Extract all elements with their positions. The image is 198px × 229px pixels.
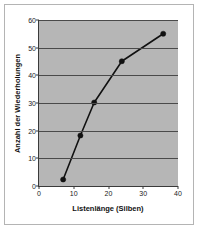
gridline-y-40 — [39, 75, 178, 76]
y-tick-mark-10 — [36, 158, 39, 159]
y-axis-title: Anzahl der Wiederholungen — [12, 20, 23, 187]
gridline-y-20 — [39, 131, 178, 132]
x-tick-label-0: 0 — [37, 190, 41, 197]
x-tick-mark-40 — [178, 186, 179, 189]
gridline-y-30 — [39, 103, 178, 104]
y-tick-label-50: 50 — [28, 44, 36, 51]
y-tick-mark-40 — [36, 75, 39, 76]
x-tick-mark-0 — [39, 186, 40, 189]
data-point-0 — [61, 177, 66, 182]
gridline-y-50 — [39, 48, 178, 49]
x-tick-label-20: 20 — [105, 190, 113, 197]
data-point-4 — [161, 31, 166, 36]
x-tick-label-10: 10 — [70, 190, 78, 197]
x-tick-mark-10 — [73, 186, 74, 189]
y-tick-label-10: 10 — [28, 155, 36, 162]
chart-figure: 0102030405060010203040 Anzahl der Wieder… — [0, 0, 198, 229]
x-tick-label-30: 30 — [139, 190, 147, 197]
x-tick-mark-30 — [143, 186, 144, 189]
y-tick-label-20: 20 — [28, 127, 36, 134]
data-point-1 — [78, 133, 83, 138]
x-tick-mark-20 — [108, 186, 109, 189]
y-tick-label-40: 40 — [28, 72, 36, 79]
x-axis-title: Listenlänge (Silben) — [38, 204, 178, 214]
x-tick-label-40: 40 — [174, 190, 182, 197]
y-tick-mark-50 — [36, 47, 39, 48]
y-tick-label-30: 30 — [28, 100, 36, 107]
y-tick-mark-30 — [36, 103, 39, 104]
gridline-y-10 — [39, 158, 178, 159]
gridline-y-60 — [39, 20, 178, 21]
data-point-3 — [119, 59, 124, 64]
y-tick-label-60: 60 — [28, 17, 36, 24]
y-tick-mark-20 — [36, 130, 39, 131]
y-tick-label-0: 0 — [32, 183, 36, 190]
y-tick-mark-60 — [36, 20, 39, 21]
plot-area: 0102030405060010203040 — [38, 20, 178, 187]
